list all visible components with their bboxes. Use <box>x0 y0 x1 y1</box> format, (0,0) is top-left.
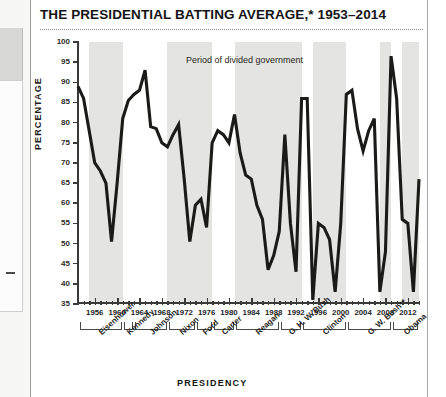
x-axis-title: PRESIDENCY <box>177 378 248 388</box>
president-name-labels: EisenhowerKennedyJohnsonNixonFordCarterR… <box>78 330 419 396</box>
y-axis-tick-label: 85 <box>52 97 70 106</box>
page-right-rule <box>427 0 428 397</box>
y-axis-tick-label: 55 <box>52 218 70 227</box>
legend: Period of divided government <box>169 54 303 65</box>
y-axis-tick-label: 75 <box>52 138 70 147</box>
x-axis-year-label: 2004 <box>354 308 371 317</box>
legend-swatch-divided-government <box>169 54 180 65</box>
data-series-line <box>78 42 419 304</box>
y-axis-tick-label: 65 <box>52 178 70 187</box>
page-scan-artifact-top <box>0 28 23 80</box>
x-axis-year-label: 1956 <box>86 308 103 317</box>
y-axis-tick-label: 50 <box>52 239 70 248</box>
x-axis-year-label: 1984 <box>243 308 260 317</box>
president-name: Ford <box>201 318 220 337</box>
chart-title: THE PRESIDENTIAL BATTING AVERAGE,* 1953–… <box>40 7 386 22</box>
page-scan-artifact-panel <box>0 80 23 312</box>
figure-sheet: THE PRESIDENTIAL BATTING AVERAGE,* 1953–… <box>31 0 427 397</box>
x-axis-year-label: 1972 <box>176 308 193 317</box>
y-axis-tick-label: 100 <box>52 37 70 46</box>
y-axis-title: PERCENTAGE <box>33 77 43 150</box>
y-axis-tick-label: 80 <box>52 118 70 127</box>
legend-label: Period of divided government <box>186 55 303 65</box>
x-axis-tick <box>419 301 420 306</box>
y-axis-tick-label: 90 <box>52 77 70 86</box>
y-axis-tick-label: 40 <box>52 279 70 288</box>
y-axis-tick-label: 60 <box>52 198 70 207</box>
y-axis-tick-label: 95 <box>52 57 70 66</box>
y-axis-tick-label: 45 <box>52 259 70 268</box>
y-axis-tick-label: 35 <box>52 299 70 308</box>
title-divider <box>40 29 423 30</box>
x-axis-year-label: 1976 <box>198 308 215 317</box>
plot-area <box>78 42 419 304</box>
page-scan-artifact-mark <box>6 272 15 274</box>
y-axis-tick-label: 70 <box>52 158 70 167</box>
